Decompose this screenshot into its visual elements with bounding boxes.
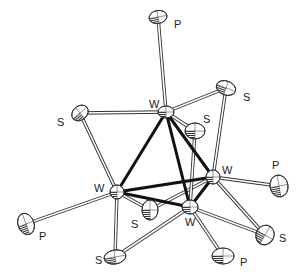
atom-w-ellipsoid (110, 185, 124, 199)
atom-label-p: P (240, 256, 247, 268)
atom-p-ellipsoid (212, 248, 234, 264)
atom-label-w: W (149, 98, 160, 110)
metal-bond-W1-W3 (117, 112, 166, 192)
atom-s-ellipsoid (69, 102, 92, 124)
bond-fill (80, 113, 117, 192)
atom-w-ellipsoid (206, 170, 220, 184)
atom-label-p: P (174, 18, 181, 30)
atom-w-ellipsoid (158, 106, 174, 118)
atom-label-s: S (57, 116, 64, 128)
bond-fill (80, 112, 166, 113)
atom-s-ellipsoid (185, 123, 205, 139)
atom-p-ellipsoid (148, 9, 168, 25)
bond-fill (190, 131, 195, 207)
atom-label-s: S (203, 113, 210, 125)
bond-fill (166, 88, 226, 112)
bond-fill (213, 177, 279, 186)
atom-label-s: S (95, 254, 102, 266)
molecular-structure-diagram: PWSSSWPWWSSPSP (0, 0, 301, 272)
ligand-bonds (26, 17, 279, 257)
atom-p-ellipsoid (268, 174, 290, 199)
atom-label-p: P (272, 159, 279, 171)
atom-label-s: S (279, 232, 286, 244)
atom-label-s: S (243, 91, 250, 103)
atom-label-p: P (39, 230, 46, 242)
atom-s-ellipsoid (214, 78, 238, 98)
atom-label-w: W (222, 164, 233, 176)
atom-label-w: W (94, 182, 105, 194)
atom-s-ellipsoid (142, 200, 158, 220)
atom-p-ellipsoid (15, 211, 38, 237)
atom-label-w: W (185, 216, 196, 228)
atom-w-ellipsoid (182, 200, 198, 214)
bond-fill (26, 192, 117, 224)
atom-label-s: S (131, 218, 138, 230)
